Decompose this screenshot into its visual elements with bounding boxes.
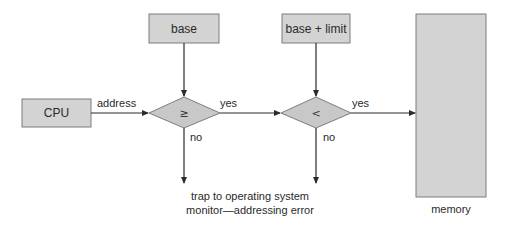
lt-operator-label: < (311, 107, 320, 120)
address-edge-label: address (97, 97, 137, 109)
less-than-comparator: < (281, 97, 351, 128)
ge-operator-label: ≥ (179, 107, 188, 120)
base-limit-register-node: base + limit (282, 14, 350, 43)
trap-label-line2: monitor—addressing error (186, 204, 314, 216)
memory-label: memory (431, 203, 471, 215)
no2-edge-label: no (323, 131, 335, 143)
base-label: base (171, 22, 197, 36)
cpu-node: CPU (22, 99, 91, 127)
cpu-label: CPU (44, 106, 69, 120)
base-limit-protection-diagram: CPU base base + limit memory ≥ < (0, 0, 509, 231)
trap-label-line1: trap to operating system (191, 190, 309, 202)
yes1-edge-label: yes (220, 97, 238, 109)
yes2-edge-label: yes (352, 97, 370, 109)
memory-node: memory (416, 14, 486, 215)
greater-equal-comparator: ≥ (149, 97, 220, 128)
base-limit-label: base + limit (285, 22, 347, 36)
no1-edge-label: no (190, 131, 202, 143)
base-register-node: base (149, 14, 219, 43)
